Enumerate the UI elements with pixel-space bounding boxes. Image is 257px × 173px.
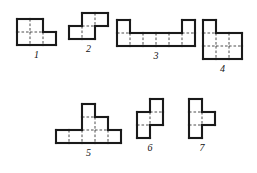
figure-4-cells	[203, 20, 242, 59]
figure-3-shape	[114, 17, 198, 49]
figure-7-shape	[186, 96, 218, 141]
figure-label-5: 5	[86, 147, 91, 158]
cell	[69, 130, 82, 143]
figure-5-cells	[56, 104, 121, 143]
figure-3: 3	[114, 17, 198, 61]
figure-label-4: 4	[220, 63, 225, 74]
cell	[95, 130, 108, 143]
cell	[150, 112, 163, 125]
cell	[189, 99, 202, 112]
cell	[108, 130, 121, 143]
cell	[95, 117, 108, 130]
cell	[156, 33, 169, 46]
cell	[203, 20, 216, 33]
cell	[82, 117, 95, 130]
figure-6-shape	[134, 96, 166, 141]
cell	[189, 112, 202, 125]
cell	[82, 130, 95, 143]
cell	[117, 33, 130, 46]
cell	[30, 19, 43, 32]
cell	[130, 33, 143, 46]
figure-label-7: 7	[200, 142, 205, 153]
cell	[143, 33, 156, 46]
cell	[69, 26, 82, 39]
figure-label-2: 2	[86, 43, 91, 54]
cell	[117, 20, 130, 33]
figure-2-shape	[66, 10, 111, 42]
cell	[43, 32, 56, 45]
figure-label-1: 1	[34, 49, 39, 60]
cell	[17, 32, 30, 45]
figure-4-shape	[200, 17, 245, 62]
cell	[189, 125, 202, 138]
cell	[229, 46, 242, 59]
figure-5-shape	[53, 101, 124, 146]
figure-6: 6	[134, 96, 166, 153]
cell	[17, 19, 30, 32]
cell	[169, 33, 182, 46]
cell	[82, 104, 95, 117]
cell	[82, 26, 95, 39]
figure-1-shape	[14, 16, 59, 48]
cell	[137, 112, 150, 125]
figure-label-6: 6	[148, 142, 153, 153]
cell	[150, 99, 163, 112]
cell	[203, 33, 216, 46]
cell	[216, 46, 229, 59]
cell	[137, 125, 150, 138]
figure-4: 4	[200, 17, 245, 74]
figure-7: 7	[186, 96, 218, 153]
cell	[56, 130, 69, 143]
cell	[182, 33, 195, 46]
figures-sheet: 1234567	[0, 0, 257, 173]
cell	[95, 13, 108, 26]
cell	[203, 46, 216, 59]
figure-label-3: 3	[154, 50, 159, 61]
cell	[82, 13, 95, 26]
cell	[229, 33, 242, 46]
figure-2: 2	[66, 10, 111, 54]
figure-5: 5	[53, 101, 124, 158]
cell	[216, 33, 229, 46]
figure-1: 1	[14, 16, 59, 60]
cell	[182, 20, 195, 33]
cell	[30, 32, 43, 45]
cell	[202, 112, 215, 125]
